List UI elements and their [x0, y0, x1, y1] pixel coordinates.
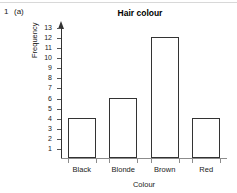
y-axis-title: Frequency	[30, 23, 39, 58]
y-axis-tick: 13	[57, 28, 61, 29]
y-axis-tick: 8	[57, 78, 61, 79]
y-axis-tick-label: 13	[44, 23, 52, 32]
y-axis-tick-label: 8	[48, 73, 52, 82]
plot-area: 13121110987654321	[61, 22, 227, 159]
y-axis-tick: 9	[57, 68, 61, 69]
x-axis-line	[61, 158, 227, 159]
y-axis-tick: 12	[57, 38, 61, 39]
bar-red	[192, 118, 220, 158]
bar-blonde	[109, 98, 137, 158]
y-axis-tick-label: 12	[44, 33, 52, 42]
y-axis-tick: 7	[57, 88, 61, 89]
x-axis-tick	[109, 159, 110, 163]
x-axis-tick	[192, 159, 193, 163]
y-axis-tick-label: 10	[44, 53, 52, 62]
x-axis-tick	[220, 159, 221, 163]
y-axis-tick-label: 7	[48, 83, 52, 92]
y-axis-tick: 4	[57, 119, 61, 120]
bar-brown	[151, 37, 179, 158]
y-axis-tick-label: 5	[48, 104, 52, 113]
x-axis-title: Colour	[61, 180, 227, 189]
y-axis-line	[61, 28, 62, 159]
question-part-label: (a)	[14, 7, 24, 17]
y-axis-tick-label: 1	[48, 144, 52, 153]
y-axis-tick: 3	[57, 129, 61, 130]
y-axis-tick: 2	[57, 139, 61, 140]
y-axis-tick-label: 9	[48, 63, 52, 72]
y-axis-tick-label: 4	[48, 114, 52, 123]
y-axis-tick: 10	[57, 58, 61, 59]
bar-black	[68, 118, 96, 158]
chart-title: Hair colour	[60, 8, 220, 18]
y-axis-tick-label: 6	[48, 94, 52, 103]
x-axis-tick	[151, 159, 152, 163]
y-axis-tick-label: 11	[45, 43, 52, 52]
y-axis-tick: 1	[57, 149, 61, 150]
chart-page: 1 (a) Hair colour 13121110987654321 Blac…	[0, 0, 237, 193]
x-axis-tick	[96, 159, 97, 163]
question-number: 1	[4, 7, 8, 17]
y-axis-tick: 5	[57, 109, 61, 110]
y-axis-tick: 11	[57, 48, 61, 49]
y-axis-tick-label: 3	[48, 124, 52, 133]
x-axis-tick	[179, 159, 180, 163]
page-top-rule	[0, 2, 237, 3]
x-axis-tick	[68, 159, 69, 163]
x-axis-tick	[137, 159, 138, 163]
y-axis-tick: 6	[57, 99, 61, 100]
x-axis-label-red: Red	[178, 165, 234, 174]
y-axis-tick-label: 2	[48, 134, 52, 143]
